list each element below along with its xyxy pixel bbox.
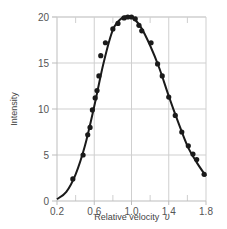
- y-tick-labels: 05101520: [38, 12, 50, 207]
- data-point: [98, 53, 103, 58]
- y-tick-label: 0: [43, 196, 49, 207]
- data-point: [186, 143, 191, 148]
- data-point: [90, 107, 95, 112]
- data-point: [139, 28, 144, 33]
- data-point: [194, 157, 199, 162]
- data-point: [93, 95, 98, 100]
- data-point: [103, 40, 108, 45]
- data-point: [148, 40, 153, 45]
- data-point: [173, 113, 178, 118]
- x-tick-label: 0.2: [50, 206, 64, 217]
- data-point: [80, 152, 85, 157]
- data-point: [136, 23, 141, 28]
- x-axis-label-text: Relative velocity: [94, 212, 160, 222]
- x-axis-label-symbol: υ: [165, 212, 170, 222]
- data-point: [70, 176, 75, 181]
- x-tick-label: 1.8: [199, 206, 213, 217]
- data-point: [115, 21, 120, 26]
- y-axis-label: Intensity: [9, 92, 19, 126]
- data-point: [202, 172, 207, 177]
- data-point: [166, 94, 171, 99]
- data-point: [87, 125, 92, 130]
- data-point: [133, 16, 138, 21]
- data-point: [94, 88, 99, 93]
- data-point: [85, 132, 90, 137]
- x-axis-label: Relative velocity υ: [94, 212, 170, 222]
- data-point: [110, 26, 115, 31]
- grid: [57, 17, 206, 201]
- data-point: [155, 61, 160, 66]
- data-points-layer: [70, 14, 207, 181]
- chart: 05101520 0.20.61.01.41.8 Intensity Relat…: [0, 0, 227, 229]
- y-tick-label: 5: [43, 150, 49, 161]
- data-point: [190, 151, 195, 156]
- data-point: [160, 73, 165, 78]
- y-tick-label: 15: [38, 58, 50, 69]
- y-tick-label: 20: [38, 12, 50, 23]
- data-point: [179, 129, 184, 134]
- y-tick-label: 10: [38, 104, 50, 115]
- data-point: [96, 73, 101, 78]
